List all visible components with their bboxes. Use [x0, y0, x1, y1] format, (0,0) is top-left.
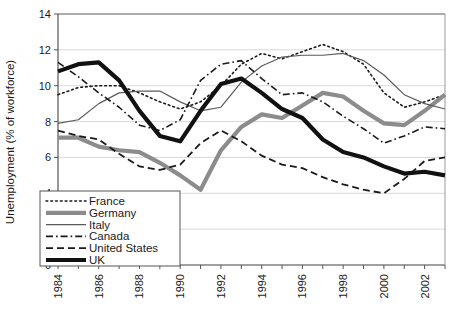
x-tick-label: 1996	[296, 274, 308, 298]
legend-label-canada: Canada	[89, 230, 130, 242]
legend-label-germany: Germany	[89, 207, 137, 219]
y-tick-label: 10	[39, 80, 51, 92]
y-axis-title: Unemployment (% of workforce)	[4, 60, 16, 224]
legend: FranceGermanyItalyCanadaUnited StatesUK	[40, 191, 180, 266]
legend-label-uk: UK	[89, 254, 105, 266]
y-tick-label: 12	[39, 44, 51, 56]
y-tick-label: 14	[39, 8, 51, 20]
series-line-united-states	[58, 131, 445, 194]
x-tick-label: 1992	[215, 274, 227, 298]
legend-label-united-states: United States	[89, 242, 158, 254]
x-tick-label: 1990	[174, 274, 186, 298]
x-tick-label: 1986	[93, 274, 105, 298]
legend-label-france: France	[89, 195, 125, 207]
x-axis-ticks: 1984198619881990199219941996199820002002	[52, 265, 445, 298]
x-tick-label: 1994	[256, 274, 268, 298]
y-tick-label: 6	[45, 151, 51, 163]
series-line-italy	[58, 53, 445, 123]
series-line-canada	[58, 61, 445, 143]
line-chart: 02468101214 1984198619881990199219941996…	[0, 0, 461, 316]
y-tick-label: 8	[45, 116, 51, 128]
x-tick-label: 1984	[52, 274, 64, 298]
x-tick-label: 1988	[133, 274, 145, 298]
x-tick-label: 1998	[337, 274, 349, 298]
legend-label-italy: Italy	[89, 219, 110, 231]
x-tick-label: 2002	[419, 274, 431, 298]
x-tick-label: 2000	[378, 274, 390, 298]
data-series-group	[58, 44, 445, 193]
chart-container: 02468101214 1984198619881990199219941996…	[0, 0, 461, 316]
